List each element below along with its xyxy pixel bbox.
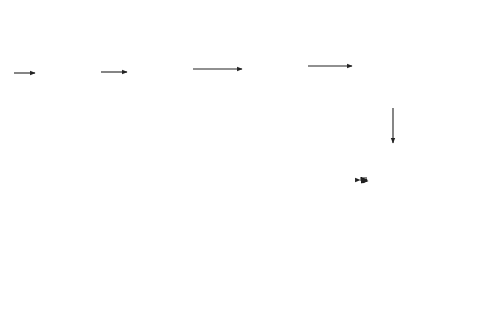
connector-arrows [0, 0, 477, 322]
diagram-canvas [0, 0, 477, 322]
